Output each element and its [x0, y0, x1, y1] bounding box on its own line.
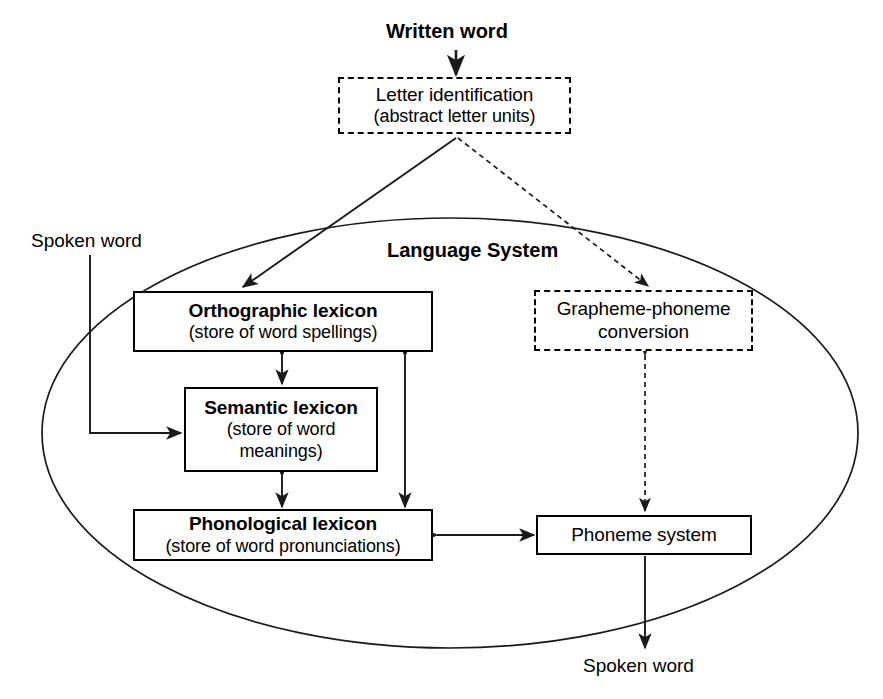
- orthographic-lexicon-subtitle: (store of word spellings): [189, 322, 378, 343]
- edge-letter-identification-to-grapheme-phoneme-conversion: [458, 138, 648, 286]
- semantic-lexicon-title: Semantic lexicon: [204, 397, 358, 419]
- phonological-lexicon-subtitle: (store of word pronunciations): [165, 536, 400, 557]
- grapheme-phoneme-conversion-title-line1: Grapheme-phoneme: [557, 298, 731, 320]
- phonological-lexicon-title: Phonological lexicon: [189, 513, 377, 535]
- letter-identification-title: Letter identification: [376, 84, 533, 106]
- diagram-canvas: Written word Spoken word Language System…: [0, 0, 883, 699]
- node-orthographic-lexicon[interactable]: Orthographic lexicon (store of word spel…: [133, 291, 433, 352]
- spoken-word-output-label: Spoken word: [583, 655, 694, 677]
- node-letter-identification[interactable]: Letter identification (abstract letter u…: [338, 77, 571, 134]
- semantic-lexicon-subtitle-line1: (store of word: [227, 419, 336, 440]
- node-phoneme-system[interactable]: Phoneme system: [536, 515, 752, 555]
- spoken-word-input-label: Spoken word: [31, 230, 142, 252]
- node-phonological-lexicon[interactable]: Phonological lexicon (store of word pron…: [133, 509, 433, 561]
- node-grapheme-phoneme-conversion[interactable]: Grapheme-phoneme conversion: [534, 290, 753, 351]
- language-system-boundary-ellipse: [42, 218, 858, 648]
- phoneme-system-title: Phoneme system: [571, 524, 716, 546]
- written-word-label: Written word: [386, 20, 508, 43]
- orthographic-lexicon-title: Orthographic lexicon: [188, 300, 377, 322]
- semantic-lexicon-subtitle-line2: meanings): [239, 441, 322, 462]
- node-semantic-lexicon[interactable]: Semantic lexicon (store of word meanings…: [184, 387, 378, 472]
- letter-identification-subtitle: (abstract letter units): [374, 106, 536, 127]
- grapheme-phoneme-conversion-title-line2: conversion: [598, 321, 689, 343]
- edge-letter-identification-to-orthographic-lexicon: [243, 138, 456, 287]
- language-system-label: Language System: [387, 239, 558, 262]
